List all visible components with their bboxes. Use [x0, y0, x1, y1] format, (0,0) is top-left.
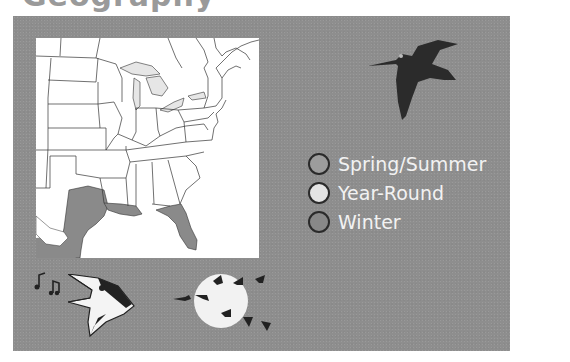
legend-label: Year-Round	[338, 182, 444, 204]
range-map-panel: Spring/Summer Year-Round Winter	[13, 16, 510, 351]
legend-item-spring-summer: Spring/Summer	[308, 149, 486, 178]
swatch-year-round	[308, 182, 330, 204]
flying-shorebird-icon	[368, 38, 483, 133]
music-notes-icon	[33, 271, 63, 296]
legend-item-year-round: Year-Round	[308, 178, 486, 207]
eastern-us-map	[36, 38, 259, 258]
legend-label: Winter	[338, 211, 401, 233]
swatch-winter	[308, 211, 330, 233]
geese-across-moon-icon	[173, 269, 293, 339]
swatch-spring-summer	[308, 153, 330, 175]
singing-bird-head-icon	[68, 274, 138, 339]
legend: Spring/Summer Year-Round Winter	[308, 149, 486, 236]
legend-item-winter: Winter	[308, 207, 486, 236]
legend-label: Spring/Summer	[338, 153, 486, 175]
range-map	[36, 38, 259, 258]
page-title: Geography	[22, 0, 215, 13]
